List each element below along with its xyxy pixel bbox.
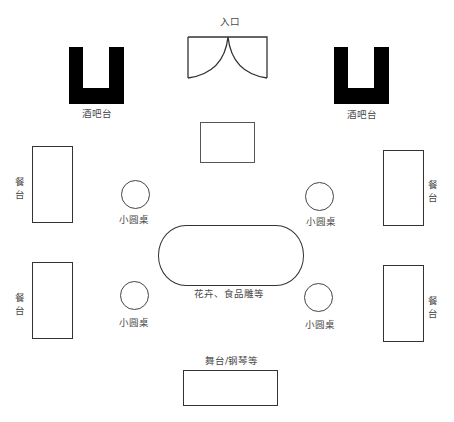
round-table-right-top bbox=[305, 182, 334, 211]
round-table-left-top bbox=[121, 180, 150, 209]
buffet-table-left-bottom bbox=[32, 262, 73, 339]
round-table-label-right-bottom: 小圆桌 bbox=[305, 320, 335, 330]
stage-label: 舞台/钢琴等 bbox=[205, 356, 258, 366]
bar-label-right: 酒吧台 bbox=[347, 110, 377, 120]
center-small-table bbox=[200, 122, 255, 163]
round-table-label-left-top: 小圆桌 bbox=[119, 215, 149, 225]
buffet-table-right-bottom bbox=[383, 265, 424, 342]
round-table-left-bottom bbox=[120, 281, 149, 310]
round-table-right-bottom bbox=[304, 283, 333, 312]
entrance-door-icon bbox=[186, 35, 270, 81]
stage-area bbox=[183, 370, 278, 406]
buffet-table-left-top bbox=[32, 146, 73, 223]
buffet-label-right-top: 餐台 bbox=[427, 178, 439, 204]
buffet-table-right-top bbox=[383, 150, 424, 226]
buffet-label-right-bottom: 餐台 bbox=[427, 294, 439, 320]
bar-label-left: 酒吧台 bbox=[82, 109, 112, 119]
bar-counter-left bbox=[69, 47, 124, 104]
buffet-label-left-top: 餐台 bbox=[14, 175, 26, 201]
bar-counter-right bbox=[334, 47, 389, 104]
centerpiece-table bbox=[158, 225, 304, 286]
round-table-label-right-top: 小圆桌 bbox=[306, 217, 336, 227]
buffet-label-left-bottom: 餐台 bbox=[14, 291, 26, 317]
entrance-label: 入口 bbox=[220, 17, 240, 27]
centerpiece-label: 花卉、食品雕等 bbox=[194, 289, 264, 299]
round-table-label-left-bottom: 小圆桌 bbox=[119, 318, 149, 328]
